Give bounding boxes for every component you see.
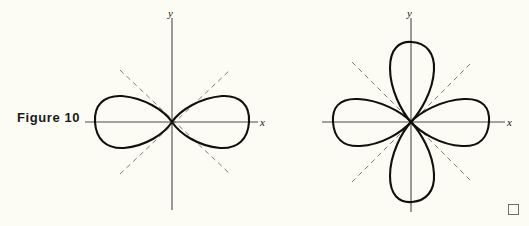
x-axis-label: x xyxy=(259,116,265,128)
y-axis-label: y xyxy=(167,7,173,19)
x-axis-label: x xyxy=(506,116,512,128)
figure-caption: Figure 10 xyxy=(17,110,80,125)
plot-four-petal-rose: y x xyxy=(300,0,525,226)
plot-lemniscate: y x xyxy=(80,0,270,226)
figure-page: Figure 10 y x y x xyxy=(0,0,529,226)
qed-square-icon xyxy=(508,204,519,215)
y-axis-label: y xyxy=(406,7,412,19)
